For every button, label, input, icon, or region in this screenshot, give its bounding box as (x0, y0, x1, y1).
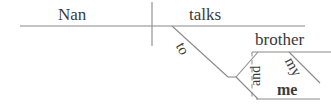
verb-word: talks (189, 6, 221, 23)
sentence-diagram: Nan talks to and brother my me (0, 0, 331, 108)
subject-word: Nan (58, 6, 86, 23)
object-one-word: brother (255, 31, 304, 48)
object-two-word: me (277, 82, 297, 98)
conjunction-word: and (249, 66, 263, 86)
